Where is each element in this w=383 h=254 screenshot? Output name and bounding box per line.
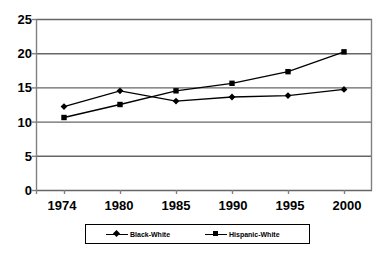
data-point-marker — [341, 49, 346, 54]
plot-area — [0, 0, 383, 254]
legend-entry-0: Black-White — [106, 229, 170, 241]
series-line-1 — [64, 52, 344, 118]
data-series-layer — [61, 49, 348, 120]
square-marker-icon — [205, 230, 227, 240]
data-point-marker — [117, 102, 122, 107]
data-point-marker — [173, 98, 180, 105]
data-point-marker — [285, 69, 290, 74]
data-point-marker — [61, 103, 68, 110]
legend-label: Black-White — [130, 231, 170, 239]
plot-frame — [37, 19, 372, 194]
gridlines — [36, 20, 372, 191]
data-point-marker — [229, 81, 234, 86]
data-point-marker — [173, 88, 178, 93]
line-chart: 25 20 15 10 5 0 1974 1980 1985 1990 1995… — [0, 0, 383, 254]
data-point-marker — [341, 86, 348, 93]
chart-legend: Black-White Hispanic-White — [85, 224, 310, 244]
axis-ticks — [32, 20, 345, 195]
series-line-0 — [64, 89, 344, 106]
data-point-marker — [285, 92, 292, 99]
diamond-marker-icon — [106, 230, 128, 240]
data-point-marker — [61, 115, 66, 120]
data-point-marker — [229, 94, 236, 101]
legend-entry-1: Hispanic-White — [205, 229, 280, 241]
legend-label: Hispanic-White — [229, 231, 280, 239]
